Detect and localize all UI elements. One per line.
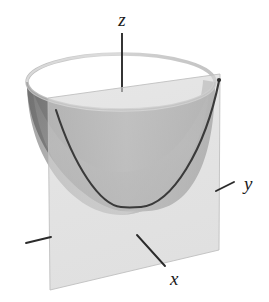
paraboloid-plane-diagram: y x z bbox=[0, 0, 269, 302]
z-axis-label: z bbox=[117, 9, 126, 30]
y-axis-label: y bbox=[242, 173, 253, 194]
x-axis-label: x bbox=[169, 268, 179, 289]
parabola-right-endpoint bbox=[217, 78, 221, 82]
figure-canvas: y x z bbox=[0, 0, 269, 302]
